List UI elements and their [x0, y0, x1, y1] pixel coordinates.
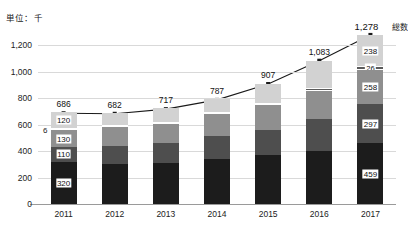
bar-segment-segment-1-2017[interactable]: 459: [357, 143, 383, 204]
bar-segment-segment-2-2013[interactable]: [153, 143, 179, 162]
segment-value-label: 320: [56, 178, 71, 187]
x-axis-label-2017: 2017: [361, 209, 380, 219]
segment-value-label: 130: [56, 134, 71, 143]
x-axis-label-2015: 2015: [259, 209, 278, 219]
bar-segment-segment-2-2016[interactable]: [306, 119, 332, 151]
y-axis-tick-label: 600: [0, 121, 32, 129]
total-series-name: 総数: [392, 21, 408, 32]
bar-segment-segment-3-2016[interactable]: [306, 91, 332, 119]
bar-2011[interactable]: 120130110320: [51, 112, 77, 204]
x-axis-label-2013: 2013: [156, 209, 175, 219]
bar-segment-segment-5-2015[interactable]: [255, 84, 281, 103]
y-axis-tick-label: 800: [0, 94, 32, 102]
bar-2016[interactable]: [306, 61, 332, 204]
y-axis-tick-label: 0: [0, 200, 32, 208]
bar-segment-segment-2-2015[interactable]: [255, 130, 281, 156]
x-axis-label-2014: 2014: [208, 209, 227, 219]
x-axis-label-2012: 2012: [105, 209, 124, 219]
bar-segment-segment-3-2017[interactable]: 258: [357, 70, 383, 104]
bar-segment-segment-3-2011[interactable]: 130: [51, 130, 77, 147]
bar-segment-segment-3-2013[interactable]: [153, 124, 179, 144]
gridline: [38, 45, 396, 46]
segment-value-label: 297: [363, 119, 378, 128]
x-axis-label-2016: 2016: [310, 209, 329, 219]
bar-segment-segment-2-2017[interactable]: 297: [357, 104, 383, 143]
bar-2013[interactable]: [153, 108, 179, 204]
bar-2017[interactable]: 23826258297459: [357, 35, 383, 204]
total-value-label-2016: 1,083: [309, 47, 330, 57]
bar-2014[interactable]: [204, 99, 230, 204]
bar-segment-segment-1-2015[interactable]: [255, 155, 281, 204]
total-value-label-2011: 686: [56, 99, 70, 109]
bar-segment-segment-1-2011[interactable]: 320: [51, 162, 77, 204]
total-value-label-2013: 717: [159, 95, 173, 105]
x-axis-line: [30, 204, 396, 205]
bar-segment-segment-5-2017[interactable]: 238: [357, 35, 383, 66]
bar-segment-segment-2-2012[interactable]: [102, 146, 128, 164]
x-axis-label-2011: 2011: [54, 209, 72, 219]
bar-2012[interactable]: [102, 113, 128, 204]
y-axis-tick-label: 1,200: [0, 41, 32, 49]
total-value-label-2014: 787: [210, 86, 224, 96]
bar-segment-segment-3-2015[interactable]: [255, 105, 281, 130]
plot-area: 12013011032023826258297459: [38, 32, 396, 204]
total-value-label-2012: 682: [108, 100, 122, 110]
segment-value-label-6: 6: [43, 125, 47, 134]
total-value-label-2015: 907: [261, 70, 275, 80]
bar-segment-segment-5-2012[interactable]: [102, 113, 128, 125]
total-value-label-2017: 1,278: [355, 21, 379, 32]
bar-segment-segment-3-2014[interactable]: [204, 114, 230, 136]
segment-value-label: 258: [363, 82, 378, 91]
unit-caption: 単位：千: [6, 11, 43, 23]
y-axis-tick-label: 400: [0, 147, 32, 155]
bar-segment-segment-5-2014[interactable]: [204, 99, 230, 112]
bar-segment-segment-1-2012[interactable]: [102, 164, 128, 204]
bar-segment-segment-1-2014[interactable]: [204, 159, 230, 204]
bar-segment-segment-5-2011[interactable]: 120: [51, 112, 77, 128]
bar-segment-segment-1-2013[interactable]: [153, 163, 179, 204]
bar-segment-segment-2-2014[interactable]: [204, 136, 230, 159]
segment-value-label: 238: [363, 46, 378, 55]
segment-value-label: 459: [363, 169, 378, 178]
segment-value-label: 110: [56, 150, 71, 159]
segment-value-label: 120: [56, 116, 71, 125]
bar-segment-segment-2-2011[interactable]: 110: [51, 147, 77, 162]
bar-segment-segment-5-2016[interactable]: [306, 61, 332, 88]
gridline: [38, 72, 396, 73]
y-axis-tick-label: 1,000: [0, 68, 32, 76]
bar-segment-segment-1-2016[interactable]: [306, 151, 332, 204]
bar-2015[interactable]: [255, 84, 281, 204]
y-axis-tick-label: 200: [0, 174, 32, 182]
bar-segment-segment-3-2012[interactable]: [102, 127, 128, 146]
bar-segment-segment-5-2013[interactable]: [153, 108, 179, 121]
